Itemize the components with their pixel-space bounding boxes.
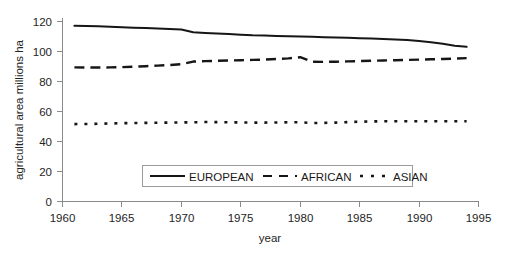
x-tick-label: 1960 bbox=[50, 212, 76, 224]
x-tick-label: 1995 bbox=[466, 212, 492, 224]
chart-figure: 120 100 80 60 40 20 0 1960 1965 1970 197… bbox=[0, 0, 506, 259]
x-axis-title: year bbox=[259, 232, 282, 244]
legend-label-asian: ASIAN bbox=[393, 171, 428, 183]
y-tick-label: 100 bbox=[33, 46, 52, 58]
y-axis-title: agricultural area millions ha bbox=[13, 39, 25, 180]
x-tick-label: 1970 bbox=[169, 212, 195, 224]
y-tick-label: 20 bbox=[39, 166, 52, 178]
x-tick-label: 1965 bbox=[109, 212, 135, 224]
x-tick-label: 1990 bbox=[407, 212, 433, 224]
legend-label-african: AFRICAN bbox=[301, 171, 351, 183]
y-tick-label: 120 bbox=[33, 16, 52, 28]
x-tick-label: 1975 bbox=[228, 212, 254, 224]
line-chart-svg: 120 100 80 60 40 20 0 1960 1965 1970 197… bbox=[0, 0, 506, 259]
y-tick-label: 60 bbox=[39, 106, 52, 118]
y-tick-label: 0 bbox=[46, 196, 52, 208]
y-tick-label: 80 bbox=[39, 76, 52, 88]
x-tick-label: 1980 bbox=[288, 212, 314, 224]
legend-label-european: EUROPEAN bbox=[189, 171, 254, 183]
x-tick-label: 1985 bbox=[347, 212, 373, 224]
chart-legend: EUROPEAN AFRICAN ASIAN bbox=[143, 166, 428, 187]
y-tick-label: 40 bbox=[39, 136, 52, 148]
